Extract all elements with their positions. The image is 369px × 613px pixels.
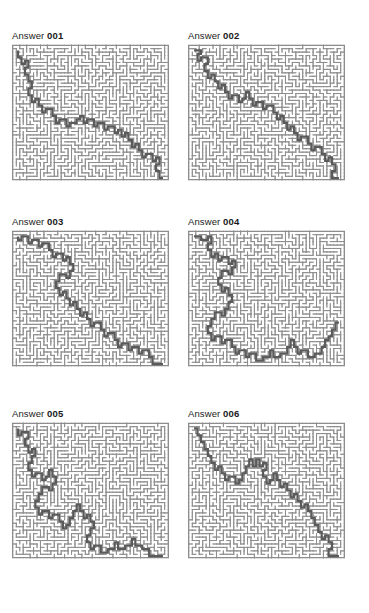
panel-label-word: Answer	[188, 408, 220, 419]
panel-label: Answer 002	[187, 30, 359, 41]
maze-figure	[188, 230, 345, 367]
panel-label: Answer 003	[11, 216, 183, 227]
panel-label: Answer 004	[187, 216, 359, 227]
panel-label-number: 001	[47, 30, 63, 41]
panel-label-word: Answer	[12, 30, 44, 41]
panel-label-number: 004	[223, 216, 239, 227]
maze-figure	[12, 44, 169, 181]
panel-label-number: 003	[47, 216, 63, 227]
panel-label-word: Answer	[12, 216, 44, 227]
panel-label-number: 006	[223, 408, 239, 419]
panel-label-word: Answer	[188, 30, 220, 41]
answer-panel: Answer 002	[187, 30, 359, 181]
panel-label-word: Answer	[12, 408, 44, 419]
maze-figure	[188, 44, 345, 181]
answer-panel: Answer 003	[11, 216, 183, 367]
panel-label: Answer 006	[187, 408, 359, 419]
panel-label: Answer 001	[11, 30, 183, 41]
answer-panel: Answer 005	[11, 408, 183, 559]
panel-label-word: Answer	[188, 216, 220, 227]
panel-label-number: 002	[223, 30, 239, 41]
answer-panel: Answer 001	[11, 30, 183, 181]
maze-answer-page: Answer 001 Answer 002 Answer 003 Answer …	[0, 0, 369, 613]
maze-figure	[12, 230, 169, 367]
answer-panel: Answer 004	[187, 216, 359, 367]
panel-label: Answer 005	[11, 408, 183, 419]
answer-grid: Answer 001 Answer 002 Answer 003 Answer …	[0, 0, 369, 613]
maze-figure	[188, 422, 345, 559]
panel-label-number: 005	[47, 408, 63, 419]
maze-figure	[12, 422, 169, 559]
answer-panel: Answer 006	[187, 408, 359, 559]
